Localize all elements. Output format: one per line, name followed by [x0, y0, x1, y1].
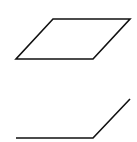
open-parallelogram-shape — [16, 99, 130, 138]
parallelogram-shape — [16, 19, 130, 59]
diagram-svg — [0, 0, 137, 142]
diagram-canvas — [0, 0, 137, 142]
